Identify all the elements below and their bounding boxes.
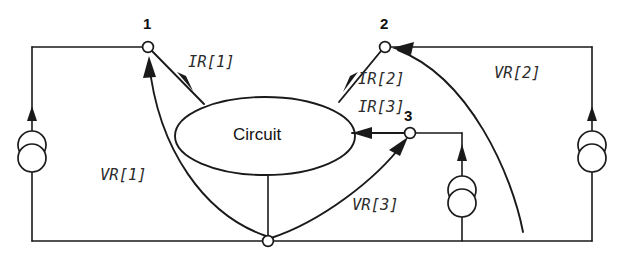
node-label-1: 1 [143,16,151,31]
circuit-block-label: Circuit [233,126,281,143]
current-label-ir1: IR[1] [188,55,235,71]
current-source-left [18,106,46,172]
current-source-right [578,106,606,172]
current-label-ir2: IR[2] [358,72,405,88]
current-source-middle [448,144,476,217]
source-right-arrowhead [587,106,597,121]
ir1-arrowhead [177,72,193,91]
node-label-2: 2 [380,16,388,31]
voltage-label-vr2: VR[2] [494,66,541,82]
source-middle-arrowhead [457,144,467,161]
current-label-ir3: IR[3] [358,100,405,116]
source-left-arrowhead [27,106,37,121]
circuit-schematic-canvas [0,0,623,264]
voltage-label-vr3: VR[3] [352,198,399,214]
vr3-arrowhead [389,137,408,156]
current-arrow-ir3 [352,127,405,139]
node-dot-2[interactable] [380,42,391,53]
vr1-arrowhead [143,56,156,78]
node-dot-ground[interactable] [263,236,274,247]
circuit-diagram: Circuit 1 2 3 IR[1] IR[2] IR[3] VR[1] VR… [0,0,623,264]
source-left-circle-lower [18,144,46,172]
node-label-3: 3 [404,108,412,123]
node-dot-3[interactable] [405,128,416,139]
source-middle-circle-lower [448,189,476,217]
voltage-label-vr1: VR[1] [100,168,147,184]
node-dot-1[interactable] [143,42,154,53]
source-right-circle-lower [578,144,606,172]
